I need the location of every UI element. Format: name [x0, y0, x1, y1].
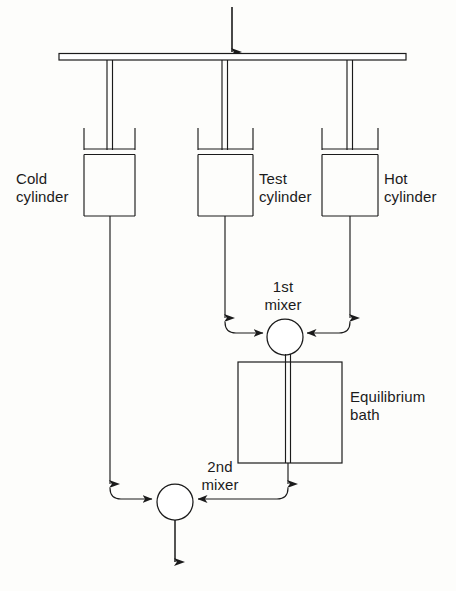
label-equilibrium-bath: Equilibrium bath: [350, 388, 454, 425]
flow-test-to-first-mixer: [225, 216, 263, 333]
label-test-cylinder: Test cylinder: [259, 170, 337, 207]
flow-cold-to-second-mixer: [110, 216, 152, 499]
process-diagram: Cold cylinder Test cylinder Hot cylinder…: [0, 0, 456, 591]
diagram-canvas: [0, 0, 456, 591]
label-cold-cylinder: Cold cylinder: [16, 170, 94, 207]
label-second-mixer: 2nd mixer: [187, 458, 253, 495]
bath-internal-pipe: [286, 354, 291, 463]
flow-hot-to-first-mixer: [307, 216, 350, 333]
label-hot-cylinder: Hot cylinder: [384, 170, 456, 207]
label-first-mixer: 1st mixer: [248, 278, 318, 315]
test-cylinder: [198, 60, 253, 216]
drive-beam: [59, 54, 406, 61]
first-mixer: [267, 319, 303, 355]
